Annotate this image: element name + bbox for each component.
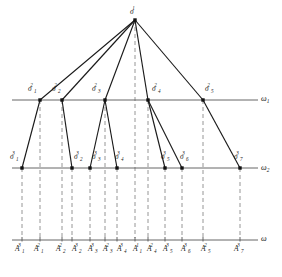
label-A-1-1-superscript: 1: [136, 242, 138, 248]
axis-label-omega2: ω2: [261, 164, 269, 172]
label-sigma-5-2-subscript: 5: [211, 88, 214, 94]
label-sigma-4-3-subscript: 4: [121, 156, 124, 162]
tree-canvas: [0, 0, 282, 277]
label-A-6-3-superscript: 3: [184, 242, 187, 248]
label-A-1-1-subscript: 1: [140, 248, 143, 254]
label-sigma-7-3-superscript: 3: [236, 150, 239, 156]
label-sigma-2-3-subscript: 2: [80, 156, 83, 162]
label-sigma-3-2: σ23: [92, 85, 101, 92]
label-A-3-3-superscript: 3: [91, 242, 94, 248]
label-A-5-3-superscript: 3: [166, 242, 169, 248]
edge-sigma-1-2-sigma-1-3: [22, 100, 40, 168]
label-A-4-3: A34: [117, 245, 127, 252]
node-sigma-3-3: [88, 166, 91, 169]
edge-sigma-2-2-sigma-2-3: [62, 100, 72, 168]
label-sigma-1-3: σ31: [10, 153, 19, 160]
axis-label-omega-base: ω: [261, 234, 267, 243]
label-A-1-2: A21: [34, 245, 44, 252]
node-sigma-4-3: [115, 166, 118, 169]
label-sigma-7-3: σ37: [234, 153, 243, 160]
label-sigma-4-2-superscript: 2: [154, 82, 157, 88]
label-sigma-3-3-subscript: 3: [98, 156, 101, 162]
label-sigma-5-3-subscript: 5: [167, 156, 170, 162]
label-sigma-2-3-superscript: 3: [76, 150, 79, 156]
label-A-3-2: A23: [103, 245, 113, 252]
label-sigma-6-3: σ36: [180, 153, 189, 160]
label-A-7-3-superscript: 3: [237, 242, 240, 248]
label-A-2-3-superscript: 3: [75, 242, 78, 248]
node-sigma-5-2: [201, 98, 204, 101]
label-A-1-3-superscript: 3: [18, 242, 21, 248]
edge-sigma-1-1-sigma-4-2: [135, 20, 148, 100]
label-A-1-2-superscript: 2: [37, 242, 40, 248]
label-sigma-1-2: σ21: [28, 85, 37, 92]
label-sigma-4-2-subscript: 4: [158, 88, 161, 94]
axis-label-omega1-base: ω: [261, 94, 267, 103]
label-A-5-3: A35: [163, 245, 173, 252]
label-A-6-3: A36: [181, 245, 191, 252]
label-sigma-1-3-subscript: 1: [16, 156, 19, 162]
label-sigma-4-2: σ24: [152, 85, 161, 92]
label-A-3-3: A33: [88, 245, 98, 252]
label-sigma-3-3-superscript: 3: [94, 150, 97, 156]
label-A-1-3: A31: [15, 245, 25, 252]
node-sigma-2-2: [60, 98, 63, 101]
axis-label-omega1-subscript: 1: [267, 98, 270, 104]
label-sigma-2-2: σ22: [52, 85, 61, 92]
label-A-2-2: A22: [56, 245, 66, 252]
label-sigma-5-3: σ35: [161, 153, 170, 160]
axis-label-omega1: ω1: [261, 95, 269, 103]
tree-diagram: σ1σ21σ22σ23σ24σ25σ31σ32σ33σ34σ35σ36σ37A3…: [0, 0, 282, 277]
label-sigma-6-3-subscript: 6: [186, 156, 189, 162]
label-sigma-7-3-subscript: 7: [240, 156, 243, 162]
label-A-2-2-superscript: 2: [59, 242, 62, 248]
node-sigma-1-3: [20, 166, 23, 169]
label-sigma-1-2-superscript: 2: [30, 82, 33, 88]
label-A-2-3: A32: [72, 245, 82, 252]
label-sigma-4-3: σ34: [115, 153, 124, 160]
label-sigma-6-3-superscript: 3: [182, 150, 185, 156]
label-sigma-1-1: σ1: [130, 8, 136, 15]
label-sigma-4-3-superscript: 3: [117, 150, 120, 156]
label-A-4-3-superscript: 3: [120, 242, 123, 248]
edge-sigma-1-1-sigma-5-2: [135, 20, 203, 100]
label-sigma-1-2-subscript: 1: [34, 88, 37, 94]
label-sigma-3-3: σ33: [92, 153, 101, 160]
axis-label-omega2-base: ω: [261, 163, 267, 172]
label-sigma-5-2: σ25: [205, 85, 214, 92]
node-sigma-1-1: [133, 18, 136, 21]
node-sigma-7-3: [238, 166, 241, 169]
node-sigma-5-3: [163, 166, 166, 169]
label-A-4-2-superscript: 2: [150, 242, 153, 248]
axis-label-omega: ω: [261, 235, 267, 243]
label-A-3-2-superscript: 2: [106, 242, 109, 248]
axis-label-omega2-subscript: 2: [267, 167, 270, 173]
node-sigma-6-3: [180, 166, 183, 169]
label-sigma-1-1-superscript: 1: [132, 5, 135, 11]
label-A-5-2: A25: [201, 245, 211, 252]
node-sigma-2-3: [70, 166, 73, 169]
label-sigma-2-2-superscript: 2: [54, 82, 57, 88]
label-sigma-3-2-subscript: 3: [98, 88, 101, 94]
node-sigma-3-2: [103, 98, 106, 101]
label-A-4-2: A24: [147, 245, 157, 252]
label-sigma-1-3-superscript: 3: [12, 150, 15, 156]
node-sigma-1-2: [38, 98, 41, 101]
label-A-7-3: A37: [234, 245, 244, 252]
node-sigma-4-2: [146, 98, 149, 101]
label-sigma-2-3: σ32: [74, 153, 83, 160]
label-sigma-5-3-superscript: 3: [163, 150, 166, 156]
label-A-1-1: A11: [133, 245, 142, 252]
label-sigma-3-2-superscript: 2: [94, 82, 97, 88]
label-A-5-2-superscript: 2: [204, 242, 207, 248]
label-sigma-2-2-subscript: 2: [58, 88, 61, 94]
label-sigma-5-2-superscript: 2: [207, 82, 210, 88]
